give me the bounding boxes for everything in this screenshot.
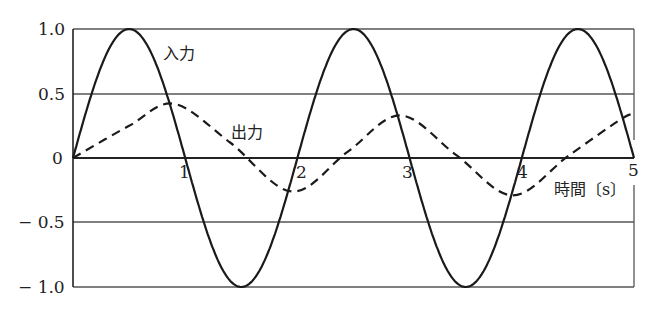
y-tick-0.5: 0.5 bbox=[38, 86, 65, 103]
y-tick-0: 0 bbox=[52, 150, 63, 167]
x-tick-5: 5 bbox=[628, 162, 639, 179]
x-tick-4: 4 bbox=[517, 164, 528, 181]
output-annotation: 出力 bbox=[231, 125, 263, 141]
input-annotation: 入力 bbox=[163, 46, 195, 62]
output-series-line bbox=[73, 103, 634, 195]
plot-area bbox=[0, 0, 654, 314]
y-tick-neg0.5: − 0.5 bbox=[18, 214, 65, 231]
x-axis-label: 時間〔s〕 bbox=[554, 182, 626, 198]
y-tick-neg1.0: − 1.0 bbox=[18, 279, 65, 296]
y-tick-1.0: 1.0 bbox=[38, 21, 65, 38]
x-tick-1: 1 bbox=[179, 164, 190, 181]
x-tick-2: 2 bbox=[296, 164, 307, 181]
x-tick-3: 3 bbox=[402, 164, 413, 181]
